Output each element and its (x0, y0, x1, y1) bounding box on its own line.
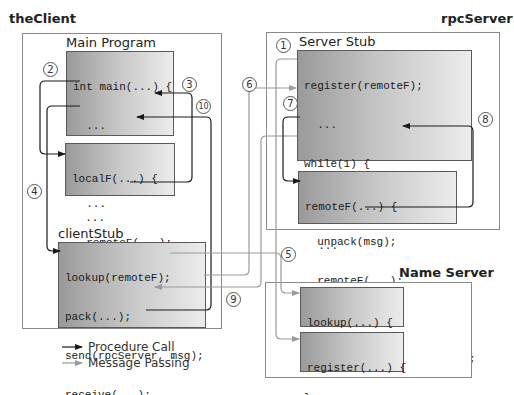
code-line: lookup(remoteF); (65, 272, 199, 285)
code-line: remoteF(...) { (305, 201, 450, 214)
step-6-badge: 6 (242, 77, 257, 92)
step-5-badge: 5 (281, 247, 296, 262)
code-line: ... (72, 212, 168, 225)
legend-message-passing: Message Passing (88, 356, 190, 370)
code-line: pack(...); (65, 311, 199, 324)
code-line: localF(...) { (72, 173, 168, 186)
main-program-code: int main(...) { ... localF(...); ... rem… (66, 51, 174, 136)
code-line: ... (304, 119, 465, 132)
name-server-title: Name Server (399, 265, 494, 280)
step-7-badge: 7 (283, 96, 298, 111)
code-line: register(remoteF); (304, 80, 465, 93)
step-1-badge: 1 (276, 38, 291, 53)
remoteF-code: remoteF(...) { ... return; } (298, 171, 457, 224)
step-8-badge: 8 (478, 112, 493, 127)
client-stub-code: lookup(remoteF); pack(...); send(rpcServ… (58, 242, 206, 328)
code-line: ... (305, 240, 450, 253)
code-line: int main(...) { (73, 81, 167, 94)
legend-procedure-call: Procedure Call (88, 340, 175, 354)
step-9-badge: 9 (226, 292, 241, 307)
code-line: ... (73, 120, 167, 133)
main-program-label: Main Program (66, 35, 156, 50)
client-stub-label: clientStub (58, 226, 124, 241)
step-2-badge: 2 (43, 62, 58, 77)
name-lookup-code: lookup(...) { ... } (300, 287, 404, 327)
step-10-badge: 10 (196, 99, 211, 114)
code-line: lookup(...) { (307, 317, 397, 330)
code-line: receive(...); (65, 389, 199, 395)
step-4-badge: 4 (27, 184, 42, 199)
code-line: register(...) { (307, 362, 397, 375)
server-stub-code: register(remoteF); ... while(1) { receiv… (297, 50, 472, 161)
localF-code: localF(...) { ... return; } (65, 143, 175, 196)
code-line: while(1) { (304, 158, 465, 171)
server-stub-label: Server Stub (299, 34, 376, 49)
server-title: rpcServer (441, 11, 513, 26)
name-register-code: register(...) { ... } (300, 332, 404, 372)
client-title: theClient (9, 11, 76, 26)
step-3-badge: 3 (182, 77, 197, 92)
